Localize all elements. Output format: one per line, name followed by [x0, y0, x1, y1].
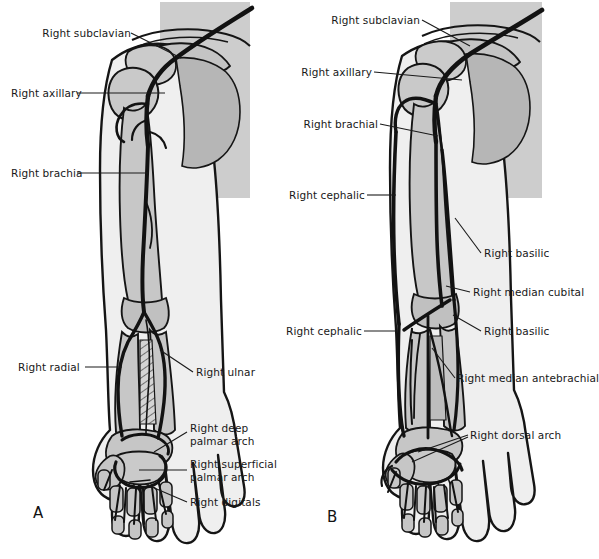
label-right-basilic-lower-b: Right basilic: [484, 325, 549, 338]
label-right-radial-a: Right radial: [18, 361, 80, 374]
label-right-superficial-palmar-arch-a: Right superficial palmar arch: [190, 458, 277, 483]
label-right-dorsal-arch-b: Right dorsal arch: [470, 429, 561, 442]
panel-letter-b: B: [327, 508, 338, 526]
label-right-subclavian-b: Right subclavian: [302, 14, 420, 27]
label-right-basilic-upper-b: Right basilic: [484, 247, 549, 260]
label-right-axillary-b: Right axillary: [290, 66, 372, 79]
label-right-axillary-a: Right axillary: [11, 87, 82, 100]
label-right-median-cubital-b: Right median cubital: [473, 286, 584, 299]
label-right-ulnar-a: Right ulnar: [196, 366, 255, 379]
label-right-digitals-a: Right digitals: [190, 496, 261, 509]
label-right-brachia-a: Right brachia: [11, 167, 82, 180]
label-right-subclavian-a: Right subclavian: [11, 27, 131, 40]
label-right-cephalic-lower-b: Right cephalic: [282, 325, 362, 338]
label-right-brachial-b: Right brachial: [290, 118, 378, 131]
label-right-cephalic-upper-b: Right cephalic: [285, 189, 365, 202]
panel-b-illustration: [381, 2, 542, 541]
panel-letter-a: A: [33, 504, 44, 522]
label-right-median-antebrachial-b: Right median antebrachial: [457, 372, 599, 385]
label-right-deep-palmar-arch-a: Right deep palmar arch: [190, 422, 254, 447]
